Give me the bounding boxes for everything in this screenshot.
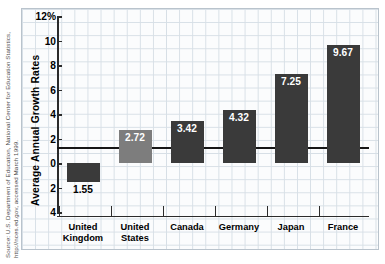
- category-tick: [267, 206, 268, 216]
- y-tick-label: 4: [28, 207, 56, 218]
- source-credit-line-2: http://nces.ed.gov, accessed March 1999.: [13, 140, 20, 258]
- category-label: France: [317, 222, 369, 233]
- category-label: Canada: [161, 222, 213, 233]
- y-tick-label: 10: [28, 35, 56, 46]
- y-tick-label: 2: [28, 133, 56, 144]
- y-tick-label: 4: [28, 109, 56, 120]
- category-label: UnitedStates: [109, 222, 161, 244]
- category-tick: [215, 206, 216, 216]
- source-credit-line-1: Source: U.S. Department of Education, Na…: [5, 32, 12, 258]
- bar-value-label: 4.32: [213, 112, 266, 123]
- bar-value-label: 1.55: [57, 184, 110, 195]
- category-label-line-1: Canada: [170, 222, 204, 232]
- category-label-line-1: United: [121, 222, 150, 232]
- category-label-line-1: France: [328, 222, 359, 232]
- y-tick-mark: [57, 139, 62, 141]
- y-tick-label: 0: [28, 158, 56, 169]
- bar-value-label: 3.42: [161, 123, 214, 134]
- category-tick: [59, 206, 60, 216]
- category-label-line-2: Kingdom: [57, 233, 109, 244]
- bar-value-label: 2.72: [109, 132, 162, 143]
- bar-value-label: 7.25: [265, 76, 318, 87]
- y-axis-tick-labels: 12%108642024: [20, 16, 56, 212]
- category-tick: [163, 206, 164, 216]
- category-tick: [111, 206, 112, 216]
- bar[interactable]: [327, 45, 360, 163]
- category-label-line-2: States: [109, 233, 161, 244]
- category-label: Japan: [265, 222, 317, 233]
- zero-baseline: [57, 147, 369, 149]
- bar[interactable]: [275, 74, 308, 163]
- category-label-line-1: Germany: [219, 222, 259, 232]
- y-tick-label: 2: [28, 182, 56, 193]
- y-tick-mark: [57, 41, 62, 43]
- category-label: Germany: [213, 222, 265, 233]
- y-tick-label: 6: [28, 84, 56, 95]
- y-tick-mark: [57, 90, 62, 92]
- y-tick-mark: [57, 163, 62, 165]
- y-tick-label: 12%: [28, 11, 56, 22]
- y-tick-mark: [57, 65, 62, 67]
- category-axis-line: [57, 216, 369, 217]
- bar[interactable]: [67, 163, 100, 182]
- category-label-line-1: Japan: [278, 222, 305, 232]
- category-label: UnitedKingdom: [57, 222, 109, 244]
- y-tick-mark: [57, 114, 62, 116]
- y-tick-mark: [57, 16, 62, 18]
- y-tick-label: 8: [28, 60, 56, 71]
- category-tick: [319, 206, 320, 216]
- category-label-line-1: United: [69, 222, 98, 232]
- bar-value-label: 9.67: [317, 47, 370, 58]
- source-credit: Source: U.S. Department of Education, Na…: [0, 0, 16, 264]
